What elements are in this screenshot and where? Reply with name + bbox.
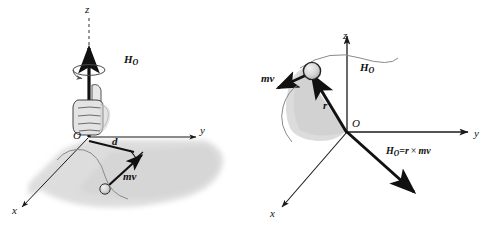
equation-mv: mv xyxy=(418,145,430,156)
right-hand-icon xyxy=(73,85,110,135)
angular-momentum-label-right: HO xyxy=(360,62,374,75)
h-subscript-left: O xyxy=(133,58,139,67)
y-axis-label-left: y xyxy=(200,125,205,136)
equation-r: r xyxy=(405,145,409,156)
angular-momentum-label-left: HO xyxy=(124,54,138,67)
position-vector-label: r xyxy=(323,100,327,111)
origin-label-right: O xyxy=(352,118,360,129)
angular-momentum-figure xyxy=(0,0,504,230)
equation-cross-operator: × xyxy=(411,145,417,156)
particle-right xyxy=(303,62,320,79)
equation-h-symbol: H xyxy=(386,145,394,156)
momentum-label-right: mv xyxy=(261,73,274,84)
angular-momentum-vector-right xyxy=(347,132,414,192)
z-axis-label-left: z xyxy=(85,4,89,15)
origin-label-left: O xyxy=(73,130,81,141)
x-axis-label-right: x xyxy=(270,208,275,219)
moment-arm-label: d xyxy=(112,136,118,147)
h-symbol-right: H xyxy=(360,61,369,73)
h-subscript-right: O xyxy=(369,66,375,75)
y-axis-label-right: y xyxy=(474,128,479,139)
momentum-label-left: mv xyxy=(123,171,136,182)
x-axis-label-left: x xyxy=(12,205,17,216)
cross-product-equation: HO=r×mv xyxy=(386,146,431,158)
z-axis-label-right: z xyxy=(343,30,347,41)
h-symbol-left: H xyxy=(124,53,133,65)
x-axis-right xyxy=(282,132,347,207)
